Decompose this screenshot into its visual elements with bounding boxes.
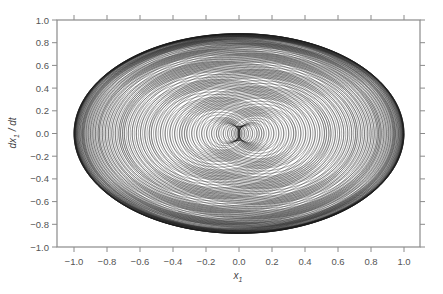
y-tick-label: −0.6 [30, 196, 49, 207]
y-tick-label: 1.0 [36, 15, 49, 26]
x-tick-label: 0.2 [265, 256, 278, 267]
y-tick-label: 0.6 [36, 60, 49, 71]
x-tick-label: 1.0 [397, 256, 410, 267]
x-tick-label: −1.0 [65, 256, 84, 267]
y-tick-label: −0.4 [30, 173, 49, 184]
x-tick-label: −0.6 [131, 256, 150, 267]
y-tick-label: −0.2 [30, 151, 49, 162]
y-tick-label: −1.0 [30, 242, 49, 253]
x-axis-label: x1 [233, 270, 243, 283]
x-tick-label: 0.4 [298, 256, 311, 267]
y-tick-label: 0.0 [36, 128, 49, 139]
y-tick-label: 0.2 [36, 105, 49, 116]
y-tick-label: −0.8 [30, 219, 49, 230]
trajectory-curve [57, 20, 420, 247]
y-tick-label: 0.4 [36, 83, 49, 94]
y-axis-label: dx1 / dt [7, 116, 20, 148]
x-tick-label: 0.6 [331, 256, 344, 267]
y-tick-label: 0.8 [36, 37, 49, 48]
x-tick-label: 0.0 [232, 256, 245, 267]
x-tick-label: 0.8 [364, 256, 377, 267]
x-tick-label: −0.2 [197, 256, 216, 267]
x-tick-label: −0.8 [98, 256, 117, 267]
x-tick-label: −0.4 [164, 256, 183, 267]
